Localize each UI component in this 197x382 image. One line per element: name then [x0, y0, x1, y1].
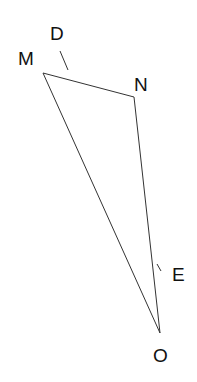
edge-mn: [43, 73, 134, 97]
tick-e: [157, 264, 161, 271]
label-n: N: [134, 74, 148, 95]
label-e: E: [172, 264, 185, 285]
label-o: O: [153, 345, 168, 366]
edge-mo: [43, 73, 160, 333]
triangle-diagram: D M N E O: [0, 0, 197, 382]
tick-d: [60, 51, 68, 70]
label-d: D: [50, 23, 64, 44]
label-m: M: [18, 48, 34, 69]
edge-no: [134, 97, 160, 333]
